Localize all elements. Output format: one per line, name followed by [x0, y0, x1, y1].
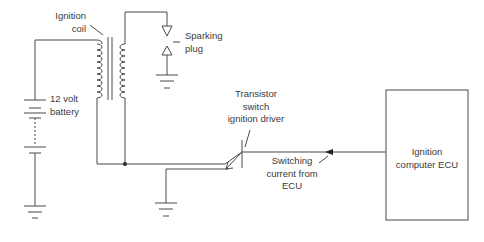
transistor-label-line3: ignition driver	[216, 113, 296, 126]
ignition-coil-leader	[90, 25, 103, 35]
ignition-coil-primary-icon	[97, 40, 125, 164]
ignition-coil-label: Ignition coil	[48, 10, 86, 35]
battery-label: 12 volt battery	[50, 93, 79, 118]
sparking-plug-label: Sparking plug	[185, 30, 223, 55]
battery-icon	[24, 100, 46, 206]
spark-plug-icon	[162, 26, 180, 75]
ground-icon-battery	[24, 206, 46, 218]
ignition-coil-core-icon	[108, 37, 112, 100]
switching-current-label-line2: current from	[256, 168, 328, 181]
ecu-label-line1: Ignition	[386, 146, 468, 159]
ignition-coil-secondary-icon	[120, 12, 167, 164]
ground-icon-transistor	[155, 203, 177, 216]
switching-current-label-line3: ECU	[256, 180, 328, 193]
transistor-label: Transistor switch ignition driver	[216, 88, 296, 126]
switching-current-label: Switching current from ECU	[256, 155, 328, 193]
battery-label-line2: battery	[50, 106, 79, 119]
transistor-label-line1: Transistor	[216, 88, 296, 101]
ecu-label-line2: computer ECU	[386, 159, 468, 172]
transistor-label-line2: switch	[216, 101, 296, 114]
battery-circuit-wire	[35, 40, 97, 100]
ignition-coil-label-line2: coil	[48, 23, 86, 36]
collector-wire	[125, 152, 242, 164]
emitter-wire	[166, 169, 228, 203]
ignition-coil-label-line1: Ignition	[48, 10, 86, 23]
sparking-plug-label-line1: Sparking	[185, 30, 223, 43]
switching-current-label-line1: Switching	[256, 155, 328, 168]
ecu-label: Ignition computer ECU	[386, 146, 468, 171]
sparking-plug-label-line2: plug	[185, 43, 223, 56]
battery-label-line1: 12 volt	[50, 93, 79, 106]
transistor-icon	[226, 130, 250, 169]
ground-icon-plug	[156, 75, 178, 88]
